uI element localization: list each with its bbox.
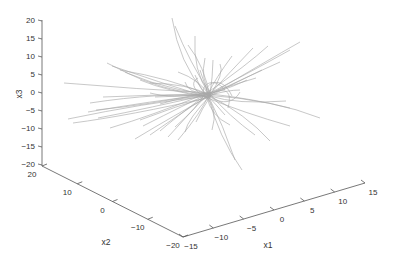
x1-tick-label: −15 xyxy=(184,242,198,251)
z-tick-label: 20 xyxy=(26,16,35,25)
z-tick-label: −10 xyxy=(21,124,35,133)
x2-tick-label: −20 xyxy=(166,241,180,250)
axes xyxy=(42,20,365,237)
trajectory-line xyxy=(64,83,211,93)
trajectory-line xyxy=(195,36,209,94)
x1-axis-label: x1 xyxy=(264,240,273,250)
x1-ticks: −15−10−5051015 xyxy=(179,180,378,251)
z-tick-label: −20 xyxy=(21,160,35,169)
z-tick xyxy=(38,110,42,111)
x1-tick xyxy=(240,216,244,219)
x1-tick-label: −5 xyxy=(247,224,257,233)
x2-tick-label: 10 xyxy=(63,188,72,197)
z-tick-label: 15 xyxy=(26,34,35,43)
trajectory-line xyxy=(112,66,207,97)
x1-tick-label: 5 xyxy=(310,206,315,215)
trajectory-line xyxy=(110,94,205,128)
x1-tick-label: 10 xyxy=(338,197,347,206)
trajectory-line xyxy=(207,46,268,93)
z-tick xyxy=(38,20,42,21)
x1-tick-label: 15 xyxy=(369,188,378,197)
x2-tick xyxy=(113,200,118,202)
x2-tick xyxy=(77,182,82,184)
z-tick-label: 0 xyxy=(31,88,36,97)
z-tick-label: −15 xyxy=(21,142,35,151)
x1-tick-label: 0 xyxy=(280,215,285,224)
x2-tick-label: 0 xyxy=(100,206,105,215)
z-tick xyxy=(38,146,42,147)
z-tick xyxy=(38,56,42,57)
z-tick-label: 10 xyxy=(26,52,35,61)
x1-tick xyxy=(361,180,365,183)
z-ticks: 20151050−5−10−15−20 xyxy=(21,16,42,169)
z-axis-label: x3 xyxy=(14,89,24,98)
x1-tick-label: −10 xyxy=(215,233,229,242)
z-tick-label: −5 xyxy=(26,106,36,115)
x2-tick xyxy=(148,217,153,219)
x2-axis-label: x2 xyxy=(102,237,111,247)
x2-tick-label: −10 xyxy=(131,223,145,232)
x1-tick xyxy=(300,198,304,201)
trajectory-line xyxy=(210,70,262,96)
3d-trajectory-plot: 20151050−5−10−15−20 20100−10−20 −15−10−5… xyxy=(0,0,395,262)
x2-tick-label: 20 xyxy=(28,170,37,179)
z-tick xyxy=(38,128,42,129)
trajectories xyxy=(64,18,320,170)
x1-tick xyxy=(209,225,213,228)
trajectory-line xyxy=(211,42,300,94)
x2-tick xyxy=(42,164,47,166)
z-tick xyxy=(38,38,42,39)
trajectory-line xyxy=(206,95,320,118)
z-tick xyxy=(38,164,42,165)
x1-tick xyxy=(331,189,335,192)
trajectory-line xyxy=(208,48,253,96)
z-tick-label: 5 xyxy=(31,70,36,79)
z-tick xyxy=(38,74,42,75)
z-tick xyxy=(38,92,42,93)
x1-tick xyxy=(270,207,274,210)
